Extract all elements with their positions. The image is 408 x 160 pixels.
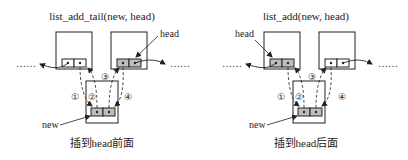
right-dots-right: …… [378, 58, 398, 69]
right-step-1: ① [277, 92, 285, 102]
left-title: list_add_tail(new, head) [49, 10, 155, 23]
left-step-1: ① [71, 92, 79, 102]
right-caption: 插到head后面 [274, 136, 339, 149]
right-diagram: list_add(new, head) …… …… head new [222, 10, 398, 149]
left-head-label: head [160, 28, 179, 39]
right-step-3: ③ [308, 72, 316, 82]
list-insert-diagram: list_add_tail(new, head) …… …… head new [0, 0, 408, 160]
left-dots-right: …… [170, 58, 190, 69]
left-step-4: ④ [124, 92, 132, 102]
right-step-2: ② [295, 92, 303, 102]
right-step-4: ④ [338, 92, 346, 102]
left-new-node [86, 81, 118, 123]
right-new-node [293, 81, 325, 123]
left-diagram: list_add_tail(new, head) …… …… head new [16, 10, 190, 149]
left-dots-left: …… [16, 58, 36, 69]
left-new-label: new [42, 119, 59, 130]
right-title: list_add(new, head) [263, 10, 349, 23]
right-new-label: new [249, 119, 266, 130]
left-step-2: ② [88, 92, 96, 102]
right-head-label: head [235, 28, 254, 39]
right-dots-left: …… [222, 58, 242, 69]
left-step-3: ③ [101, 72, 109, 82]
left-caption: 插到head前面 [70, 136, 135, 149]
